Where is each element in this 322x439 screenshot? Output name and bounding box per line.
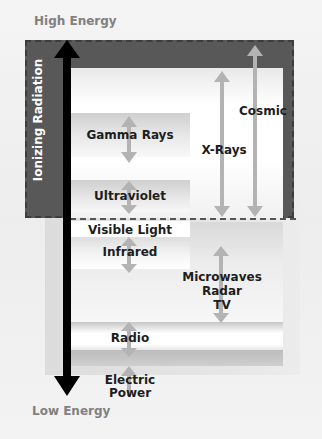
visible-light-label: Visible Light [70,223,190,237]
power-label: Power [70,386,190,400]
radar-label: Radar [180,284,264,298]
cosmic-range-arrow [247,45,263,217]
ionizing-radiation-label: Ionizing Radiation [27,40,49,200]
high-energy-label: High Energy [34,14,117,28]
gamma-rays-label: Gamma Rays [70,128,190,142]
tv-label: TV [180,298,264,312]
xrays-label: X-Rays [196,143,252,157]
radio-label: Radio [70,331,190,345]
electric-label: Electric [70,373,190,387]
microwaves-label: Microwaves [180,270,264,284]
infrared-label: Infrared [70,245,190,259]
low-energy-label: Low Energy [32,404,110,418]
ultraviolet-label: Ultraviolet [70,189,190,203]
cosmic-label: Cosmic [228,104,298,118]
